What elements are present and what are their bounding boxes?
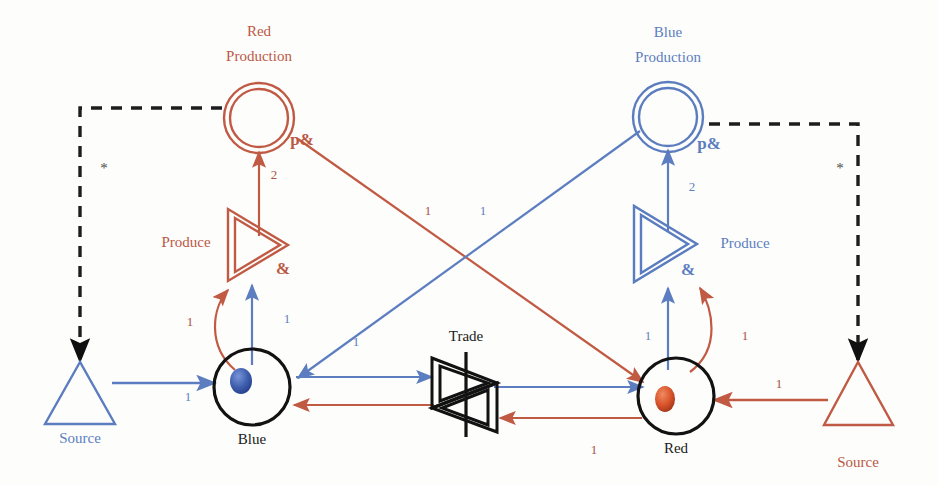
label-source-left: Source [59,430,101,446]
label-weight-produce-right-blue: 1 [645,328,652,343]
label-weight-red-production: 2 [271,167,278,182]
arc-blue-place-to-produce-left-red [215,290,235,370]
label-weight-produce-right-red: 1 [742,328,749,343]
label-place-red: Red [664,440,689,456]
label-weight-red-cross: 1 [425,203,432,218]
label-produce-right: Produce [720,235,769,251]
label-and-right: & [681,260,695,279]
node-place-red[interactable] [638,358,714,434]
label-trade: Trade [449,328,484,344]
label-produce-left: Produce [161,234,210,250]
label-source-right: Source [837,454,879,470]
label-place-blue: Blue [238,431,267,447]
label-weight-blue-production: 2 [689,179,696,194]
node-red-production[interactable] [224,83,294,153]
label-red-production-line2: Production [226,48,292,64]
token-red [655,386,675,412]
label-weight-source-right: 1 [776,376,783,391]
label-weight-produce-left-red: 1 [187,314,194,329]
reference-net-diagram: Red Production Blue Production Produce P… [0,0,938,485]
node-source-right[interactable] [824,362,893,425]
label-star-left: * [100,160,108,176]
label-blue-production-line2: Production [635,49,701,65]
label-red-production-line1: Red [247,23,272,39]
node-trade[interactable] [432,352,497,437]
arc-red-production-to-red-place [298,139,643,382]
label-star-right: * [836,160,844,176]
label-weight-source-left: 1 [185,389,192,404]
label-weight-blue-to-trade: 1 [353,334,360,349]
node-source-left[interactable] [45,362,115,424]
label-blue-production-line1: Blue [654,24,683,40]
token-blue [230,368,252,394]
node-blue-production[interactable] [633,82,703,152]
label-weight-red-to-trade: 1 [591,442,598,457]
label-weight-blue-cross: 1 [480,203,487,218]
label-p-and-left: p& [290,130,314,149]
label-and-left: & [276,259,290,278]
net-canvas: Red Production Blue Production Produce P… [0,0,938,485]
arc-red-place-to-produce-right-red [690,288,712,372]
label-p-and-right: p& [697,134,721,153]
label-weight-produce-left-blue: 1 [284,311,291,326]
